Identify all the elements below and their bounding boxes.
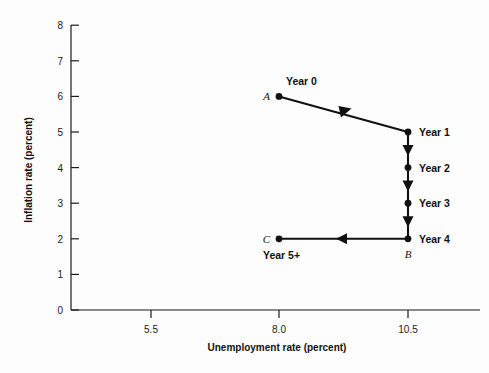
x-axis-title: Unemployment rate (percent) — [208, 342, 347, 353]
phillips-curve-chart: 0 1 2 3 4 5 6 7 8 5.5 8.0 10.5 — [0, 0, 489, 373]
label-year-4: Year 4 — [419, 233, 450, 245]
y-tick-label-2: 2 — [57, 234, 63, 245]
arrow-year2-to-year3-icon — [403, 181, 414, 192]
data-point-year2[interactable] — [405, 164, 412, 171]
arrow-year1-to-year2-icon — [403, 145, 414, 156]
x-axis-ticks: 5.5 8.0 10.5 — [144, 310, 418, 335]
y-tick-label-7: 7 — [57, 56, 63, 67]
y-tick-label-3: 3 — [57, 198, 63, 209]
y-tick-label-0: 0 — [57, 305, 63, 316]
arrowheads-group — [336, 106, 414, 244]
data-point-year3[interactable] — [405, 200, 412, 207]
label-point-b: B — [405, 248, 412, 260]
data-point-year1[interactable] — [405, 129, 412, 136]
label-year-0: Year 0 — [286, 75, 317, 87]
data-path-group — [279, 96, 408, 238]
x-tick-label-0: 5.5 — [144, 324, 158, 335]
label-year-1: Year 1 — [419, 126, 450, 138]
label-year-5plus: Year 5+ — [263, 249, 300, 261]
x-tick-label-1: 8.0 — [272, 324, 286, 335]
y-axis-ticks: 0 1 2 3 4 5 6 7 8 — [57, 20, 79, 316]
label-point-a: A — [262, 90, 270, 102]
y-tick-label-6: 6 — [57, 91, 63, 102]
data-point-b[interactable] — [405, 235, 412, 242]
arrow-year3-to-year4-icon — [403, 216, 414, 227]
annotations-group: Year 0 A Year 1 Year 2 Year 3 Year 4 B C… — [262, 75, 450, 261]
y-tick-label-5: 5 — [57, 127, 63, 138]
data-points-group — [276, 93, 412, 242]
data-point-c[interactable] — [276, 235, 283, 242]
label-year-3: Year 3 — [419, 197, 450, 209]
chart-page: 0 1 2 3 4 5 6 7 8 5.5 8.0 10.5 — [0, 0, 489, 373]
arrow-b-to-c-icon — [336, 233, 347, 244]
y-tick-label-8: 8 — [57, 20, 63, 31]
label-point-c: C — [263, 233, 271, 245]
y-tick-label-1: 1 — [57, 269, 63, 280]
label-year-2: Year 2 — [419, 162, 450, 174]
x-tick-label-2: 10.5 — [398, 324, 418, 335]
data-point-a[interactable] — [276, 93, 283, 100]
y-axis-title: Inflation rate (percent) — [23, 117, 34, 223]
y-tick-label-4: 4 — [57, 163, 63, 174]
